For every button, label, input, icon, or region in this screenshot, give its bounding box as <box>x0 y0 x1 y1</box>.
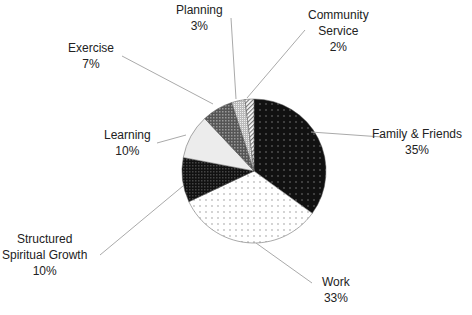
label-work: Work 33% <box>322 274 350 306</box>
label-structured-spiritual-growth: Structured Spiritual Growth 10% <box>2 231 87 279</box>
leader-work <box>256 243 312 283</box>
leader-spiritual <box>100 186 183 255</box>
label-learning: Learning 10% <box>104 127 151 159</box>
leader-learning <box>157 135 186 143</box>
leader-exercise <box>122 56 213 104</box>
label-community-service: Community Service 2% <box>308 7 369 55</box>
label-planning: Planning 3% <box>176 2 223 34</box>
label-family-friends: Family & Friends 35% <box>372 126 462 158</box>
label-exercise: Exercise 7% <box>68 40 114 72</box>
pie-slices <box>182 99 326 243</box>
leader-community <box>247 30 305 98</box>
leader-planning <box>231 18 236 99</box>
